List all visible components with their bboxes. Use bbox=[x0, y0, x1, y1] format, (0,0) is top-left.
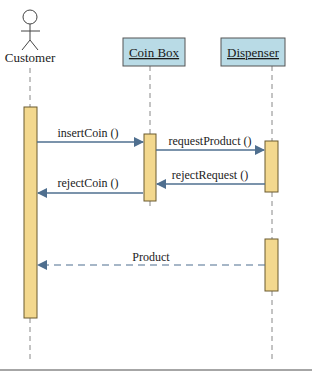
object-label: Coin Box bbox=[129, 45, 180, 60]
message-label: rejectRequest () bbox=[172, 168, 248, 182]
message-label: requestProduct () bbox=[169, 134, 252, 148]
message-label: insertCoin () bbox=[58, 126, 119, 140]
message-insert-coin: insertCoin () bbox=[37, 126, 143, 142]
message-request-product: requestProduct () bbox=[156, 134, 264, 150]
message-label: Product bbox=[132, 250, 170, 264]
message-reject-coin: rejectCoin () bbox=[38, 176, 143, 193]
message-label: rejectCoin () bbox=[58, 176, 119, 190]
actor-head-icon bbox=[23, 10, 37, 24]
actor-right-leg-icon bbox=[30, 40, 38, 50]
object-dispenser: Dispenser bbox=[221, 38, 285, 66]
object-coin-box: Coin Box bbox=[123, 38, 185, 66]
coinbox-activation bbox=[144, 134, 156, 201]
customer-actor: Customer bbox=[5, 10, 56, 65]
dispenser-activation-1 bbox=[265, 141, 278, 192]
sequence-diagram: Customer Coin Box Dispenser insertCoin (… bbox=[0, 0, 312, 375]
dispenser-activation-2 bbox=[265, 239, 278, 291]
customer-activation bbox=[24, 107, 37, 318]
actor-label: Customer bbox=[5, 50, 56, 65]
object-label: Dispenser bbox=[227, 45, 280, 60]
actor-left-leg-icon bbox=[22, 40, 30, 50]
message-product-return: Product bbox=[38, 250, 265, 265]
message-reject-request: rejectRequest () bbox=[157, 168, 265, 184]
